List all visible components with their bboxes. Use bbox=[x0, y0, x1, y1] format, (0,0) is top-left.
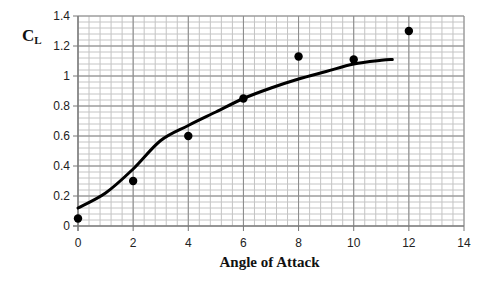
x-tick-label: 12 bbox=[402, 236, 416, 250]
major-gridlines bbox=[78, 16, 464, 226]
y-tick-label: 0.2 bbox=[53, 189, 70, 203]
x-tick-label: 4 bbox=[185, 236, 192, 250]
data-point bbox=[294, 52, 302, 60]
y-tick-label: 0.8 bbox=[53, 99, 70, 113]
minor-gridlines bbox=[78, 16, 464, 226]
x-tick-label: 14 bbox=[457, 236, 471, 250]
data-point bbox=[74, 214, 82, 222]
x-tick-label: 8 bbox=[295, 236, 302, 250]
chart-canvas: 00.20.40.60.811.21.4 02468101214 bbox=[0, 0, 487, 291]
data-point bbox=[184, 132, 192, 140]
data-point bbox=[239, 94, 247, 102]
x-axis-label: Angle of Attack bbox=[0, 254, 487, 271]
y-axis-label: CL bbox=[22, 26, 42, 46]
y-tick-label: 1.2 bbox=[53, 39, 70, 53]
x-tick-label: 10 bbox=[347, 236, 361, 250]
y-tick-label: 0.4 bbox=[53, 159, 70, 173]
y-axis-label-text: C bbox=[22, 26, 34, 45]
x-tick-label: 2 bbox=[130, 236, 137, 250]
data-point bbox=[129, 177, 137, 185]
data-point bbox=[350, 55, 358, 63]
x-axis-tick-labels: 02468101214 bbox=[75, 236, 471, 250]
y-tick-label: 1.4 bbox=[53, 9, 70, 23]
data-point bbox=[405, 27, 413, 35]
y-tick-label: 0.6 bbox=[53, 129, 70, 143]
x-tick-label: 6 bbox=[240, 236, 247, 250]
x-tick-label: 0 bbox=[75, 236, 82, 250]
y-axis-tick-labels: 00.20.40.60.811.21.4 bbox=[53, 9, 70, 233]
x-axis-label-text: Angle of Attack bbox=[220, 254, 320, 270]
y-axis-label-subscript: L bbox=[34, 34, 41, 46]
y-tick-label: 0 bbox=[63, 219, 70, 233]
y-tick-label: 1 bbox=[63, 69, 70, 83]
